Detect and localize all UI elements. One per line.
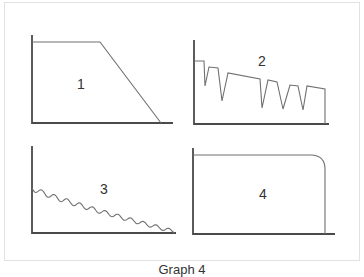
panel-2-curve [194, 61, 325, 124]
panel-2-label: 2 [258, 53, 266, 69]
figure-caption: Graph 4 [0, 262, 364, 277]
panel-4-label: 4 [259, 186, 267, 202]
panel-4: 4 [193, 148, 335, 234]
panel-3: 3 [32, 146, 176, 233]
panel-1-label: 1 [77, 76, 85, 92]
panel-1: 1 [32, 35, 173, 123]
panel-1-curve [32, 42, 161, 123]
panel-2: 2 [194, 40, 329, 124]
panel-3-label: 3 [100, 181, 108, 197]
panel-1-axes [32, 35, 173, 123]
